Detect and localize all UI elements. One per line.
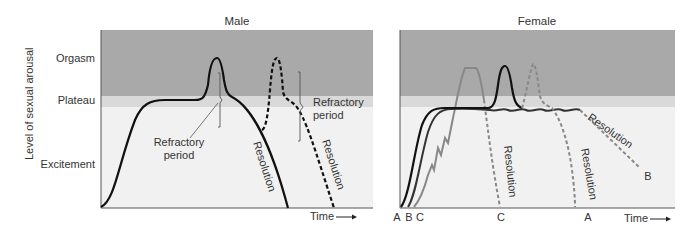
- curve-label-b-start: B: [405, 211, 412, 223]
- time-arrowhead-icon: [666, 217, 671, 222]
- male-panel-title: Male: [225, 15, 250, 27]
- orgasm-band: [101, 30, 373, 96]
- refractory-label-1: Refractory: [154, 136, 205, 148]
- refractory-label-2: Refractory: [313, 96, 364, 108]
- y-axis-title: Level of sexual arousal: [23, 47, 35, 160]
- female-panel: Female A B C C A B Resolution Resolution…: [393, 15, 675, 224]
- refractory-label-2b: period: [313, 109, 344, 121]
- male-panel: Male Refractory period Refractory period…: [101, 15, 373, 222]
- curve-label-a-end: A: [584, 211, 592, 223]
- time-arrowhead-icon: [352, 215, 357, 220]
- curve-label-a-start: A: [393, 211, 401, 223]
- level-label-plateau: Plateau: [58, 94, 95, 106]
- level-label-excitement: Excitement: [41, 158, 95, 170]
- plateau-band: [400, 96, 675, 107]
- curve-label-b-end: B: [644, 170, 651, 182]
- x-axis-label-time: Time: [624, 212, 648, 224]
- female-panel-title: Female: [518, 15, 556, 27]
- curve-label-c-start: C: [416, 211, 424, 223]
- sexual-response-cycle-diagram: Level of sexual arousal Orgasm Plateau E…: [0, 0, 692, 232]
- orgasm-band: [400, 30, 675, 96]
- x-axis-label-time: Time: [310, 210, 334, 222]
- curve-label-c-end: C: [497, 211, 505, 223]
- refractory-label-1b: period: [164, 149, 195, 161]
- level-label-orgasm: Orgasm: [56, 52, 95, 64]
